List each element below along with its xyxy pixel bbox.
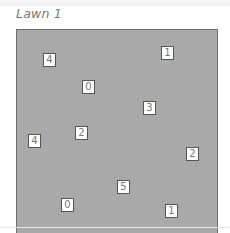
lawn-marker[interactable]: 3 (143, 101, 156, 115)
lawn-marker[interactable]: 2 (75, 126, 88, 140)
lawn-marker[interactable]: 1 (165, 204, 178, 218)
lawn-marker[interactable]: 2 (186, 147, 199, 161)
lawn-marker[interactable]: 5 (117, 180, 130, 194)
lawn-title: Lawn 1 (16, 6, 62, 21)
lawn-marker[interactable]: 0 (61, 198, 74, 212)
lawn-marker[interactable]: 4 (28, 134, 41, 148)
lawn-marker[interactable]: 4 (43, 53, 56, 67)
divider-line (0, 227, 230, 228)
lawn-marker[interactable]: 1 (161, 46, 174, 60)
lawn-marker[interactable]: 0 (82, 80, 95, 94)
